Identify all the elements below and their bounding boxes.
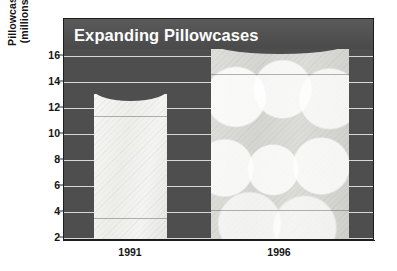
- bar-1996[interactable]: [211, 47, 349, 239]
- bar-1991-seam-upper: [94, 116, 167, 117]
- y-axis-title-line-2: (millions of dozens): [19, 0, 31, 43]
- plot-area: Expanding Pillowcases: [63, 18, 374, 240]
- bar-1996-seam-lower: [211, 210, 349, 211]
- chart-title: Expanding Pillowcases: [64, 19, 373, 49]
- bar-1996-top-dip: [211, 47, 349, 54]
- y-axis-title: Pillowcases Shipped (millions of dozens): [2, 0, 36, 78]
- y-tick-label-8: 8: [36, 153, 60, 165]
- y-tick-label-6: 6: [36, 179, 60, 191]
- chart-screenshot: Pillowcases Shipped (millions of dozens)…: [0, 0, 397, 271]
- bar-1991[interactable]: [94, 94, 167, 239]
- x-tick-label-1996: 1996: [267, 246, 290, 258]
- y-tick-label-10: 10: [36, 127, 60, 139]
- y-tick-label-16: 16: [36, 49, 60, 61]
- x-axis-line: [63, 240, 375, 241]
- y-tick-label-12: 12: [36, 101, 60, 113]
- y-tick-label-2: 2: [36, 231, 60, 243]
- bar-1991-seam-lower: [94, 218, 167, 219]
- bar-1991-top-dip: [94, 94, 167, 101]
- y-tick-label-4: 4: [36, 205, 60, 217]
- x-tick-label-1991: 1991: [118, 246, 141, 258]
- y-axis-tick-labels: 16 14 12 10 8 6 4 2: [36, 18, 60, 240]
- y-tick-label-14: 14: [36, 75, 60, 87]
- bar-1996-seam-upper: [211, 74, 349, 75]
